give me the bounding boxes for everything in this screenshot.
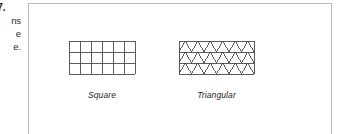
question-text-line-2: e bbox=[0, 28, 21, 39]
figure-square-label: Square bbox=[69, 90, 135, 100]
question-text-line-3: e. bbox=[0, 41, 21, 52]
triangular-grid-svg bbox=[179, 41, 254, 74]
square-grid-svg bbox=[69, 41, 135, 74]
margin-column: 7. ns e e. bbox=[0, 0, 26, 134]
square-grid-art bbox=[69, 41, 135, 81]
figure-triangular: Triangular bbox=[179, 4, 254, 100]
figure-panel: Square Triangular bbox=[28, 3, 332, 134]
figure-square: Square bbox=[69, 4, 135, 100]
question-text-line-1: ns bbox=[0, 15, 21, 26]
question-number: 7. bbox=[0, 1, 5, 13]
figure-triangular-label: Triangular bbox=[179, 90, 254, 100]
page-root: 7. ns e e. Square Triangular bbox=[0, 0, 339, 134]
triangular-grid-art bbox=[179, 41, 254, 81]
